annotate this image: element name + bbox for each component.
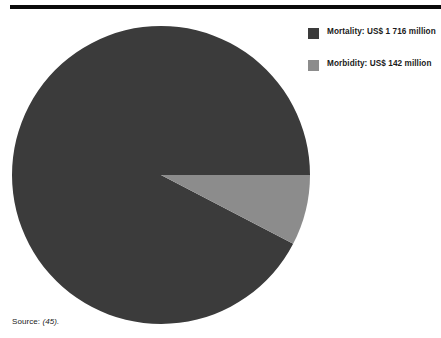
source-note-reference: (45). [42,317,59,326]
header-rule [10,5,441,9]
legend-item-morbidity: Morbidity: US$ 142 million [308,59,441,71]
legend-item-mortality: Mortality: US$ 1 716 million [308,27,441,39]
morbidity-swatch-icon [308,60,319,71]
source-note: Source: (45). [12,317,59,326]
pie-chart-svg [12,26,310,324]
pie-slice-group [12,26,310,324]
source-note-prefix: Source: [12,317,42,326]
chart-legend: Mortality: US$ 1 716 million Morbidity: … [308,27,441,91]
mortality-swatch-icon [308,28,319,39]
pie-slice-mortality [12,26,310,324]
legend-label-mortality: Mortality: US$ 1 716 million [327,27,436,37]
pie-chart [12,26,310,324]
legend-label-morbidity: Morbidity: US$ 142 million [327,59,432,69]
